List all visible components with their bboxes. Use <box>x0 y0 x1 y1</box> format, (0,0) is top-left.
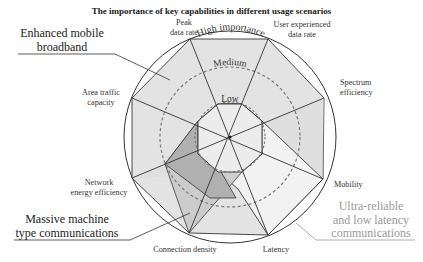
scenario-label: communications <box>322 227 420 241</box>
capability-label: Network <box>64 178 134 188</box>
capability-label: data rate <box>262 30 342 40</box>
capability-label: User experienced <box>262 20 342 30</box>
scenario-label: Enhanced mobile <box>18 27 106 41</box>
capability-label: data rate <box>154 28 214 38</box>
low-label: Low <box>221 94 239 104</box>
capability-connection-density: Connection density <box>145 245 225 255</box>
capability-label: Latency <box>256 245 296 255</box>
capability-mobility: Mobility <box>334 180 384 190</box>
capability-label: Mobility <box>334 180 384 190</box>
scenario-label: and low latency <box>322 214 420 228</box>
capability-label: Peak <box>154 18 214 28</box>
scenario-urllc-label: Ultra-reliable and low latency communica… <box>322 200 420 241</box>
capability-spectrum-efficiency: Spectrum efficiency <box>340 78 400 98</box>
scenario-label: type communications <box>12 227 122 241</box>
scenario-mmtc-label: Massive machine type communications <box>12 213 122 240</box>
capability-label: efficiency <box>340 88 400 98</box>
capability-peak-data-rate: Peak data rate <box>154 18 214 38</box>
scenario-embb-label: Enhanced mobile broadband <box>18 27 106 54</box>
capability-network-energy-efficiency: Network energy efficiency <box>64 178 134 198</box>
capability-user-experienced-data-rate: User experienced data rate <box>262 20 342 40</box>
capability-area-traffic-capacity: Area traffic capacity <box>76 88 126 108</box>
capability-label: Connection density <box>145 245 225 255</box>
scenario-label: broadband <box>18 41 106 55</box>
center-point <box>229 136 232 139</box>
capability-latency: Latency <box>256 245 296 255</box>
capability-label: capacity <box>76 98 126 108</box>
capability-label: Area traffic <box>76 88 126 98</box>
embb-leader-line <box>18 54 170 80</box>
capability-label: Spectrum <box>340 78 400 88</box>
scenario-label: Ultra-reliable <box>322 200 420 214</box>
scenario-label: Massive machine <box>12 213 122 227</box>
capability-label: energy efficiency <box>64 188 134 198</box>
